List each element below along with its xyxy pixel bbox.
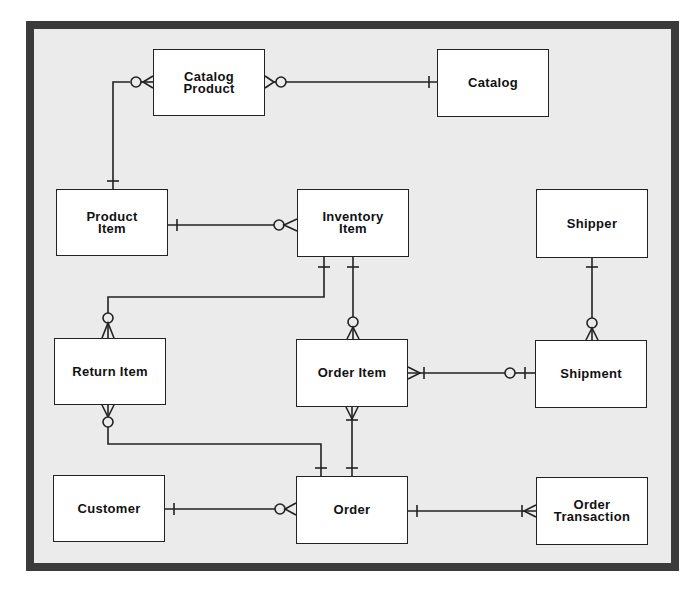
entity-shipper[interactable]: Shipper bbox=[536, 189, 648, 258]
entity-product-item[interactable]: Product Item bbox=[56, 189, 168, 256]
entity-catalog[interactable]: Catalog bbox=[437, 49, 549, 117]
rel-productitem-inventoryitem bbox=[168, 219, 297, 231]
rel-inventoryitem-orderitem bbox=[347, 257, 359, 339]
rel-returnitem-order bbox=[102, 405, 327, 476]
rel-productitem-catalogproduct bbox=[107, 76, 153, 189]
rel-orderitem-shipment bbox=[408, 367, 535, 379]
rel-order-ordertransaction bbox=[408, 505, 536, 517]
entity-order-transaction[interactable]: Order Transaction bbox=[536, 477, 648, 545]
entity-order[interactable]: Order bbox=[296, 476, 408, 544]
rel-shipper-shipment bbox=[586, 258, 598, 340]
entity-order-item[interactable]: Order Item bbox=[296, 339, 408, 407]
rel-catalog-catalogproduct bbox=[265, 76, 437, 88]
entity-return-item[interactable]: Return Item bbox=[54, 338, 166, 405]
rel-orderitem-order bbox=[346, 407, 358, 476]
rel-inventoryitem-returnitem bbox=[102, 257, 330, 338]
entity-shipment[interactable]: Shipment bbox=[535, 340, 647, 408]
entity-catalog-product[interactable]: Catalog Product bbox=[153, 49, 265, 116]
entity-inventory-item[interactable]: Inventory Item bbox=[297, 189, 409, 257]
entity-customer[interactable]: Customer bbox=[53, 475, 165, 542]
rel-customer-order bbox=[165, 503, 296, 515]
